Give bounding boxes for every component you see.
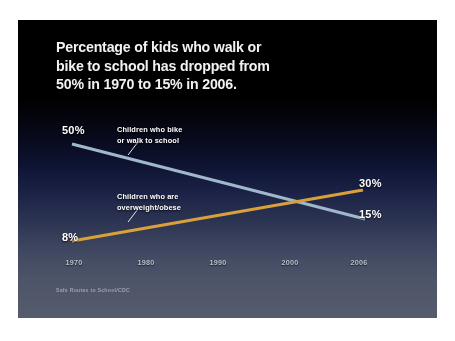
x-tick-2006: 2006 [350, 258, 367, 267]
annotation-line-2: overweight/obese [117, 203, 181, 214]
value-label-walk-bike-start: 50% [62, 124, 85, 136]
value-label-overweight-start: 8% [62, 231, 78, 243]
value-label-walk-bike-end: 15% [359, 208, 382, 220]
x-tick-1970: 1970 [65, 258, 82, 267]
series-line-overweight [72, 190, 363, 241]
line-chart-plot [18, 20, 437, 318]
series-line-walk-bike [72, 144, 365, 219]
annotation-line-1: Children who are [117, 192, 181, 203]
series-annotation-overweight: Children who are overweight/obese [117, 192, 181, 213]
x-tick-2000: 2000 [281, 258, 298, 267]
value-label-overweight-end: 30% [359, 177, 382, 189]
source-credit: Safe Routes to School/CDC [56, 287, 130, 293]
x-tick-1990: 1990 [209, 258, 226, 267]
annotation-line-1: Children who bike [117, 125, 182, 136]
series-annotation-walk-bike: Children who bike or walk to school [117, 125, 182, 146]
slide-canvas: Percentage of kids who walk or bike to s… [18, 20, 437, 318]
annotation-line-2: or walk to school [117, 136, 182, 147]
x-tick-1980: 1980 [137, 258, 154, 267]
